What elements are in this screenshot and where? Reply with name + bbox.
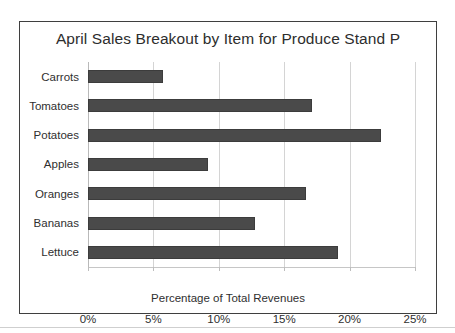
x-tick-mark xyxy=(219,267,220,271)
x-tick-mark xyxy=(88,267,89,271)
bar-row: Potatoes xyxy=(88,121,415,150)
bar[interactable] xyxy=(88,187,306,200)
bar-row: Bananas xyxy=(88,208,415,237)
gridline xyxy=(415,62,416,267)
bar-row: Carrots xyxy=(88,62,415,91)
bar[interactable] xyxy=(88,99,312,112)
bar[interactable] xyxy=(88,129,381,142)
x-axis-line xyxy=(88,267,415,268)
category-label: Apples xyxy=(44,158,79,170)
category-label: Oranges xyxy=(35,188,79,200)
category-label: Lettuce xyxy=(41,246,79,258)
x-tick-label: 20% xyxy=(338,313,361,325)
category-label: Bananas xyxy=(34,217,79,229)
x-tick-mark xyxy=(153,267,154,271)
x-tick-label: 25% xyxy=(403,313,426,325)
category-label: Carrots xyxy=(41,71,79,83)
bar-row: Tomatoes xyxy=(88,91,415,120)
bar[interactable] xyxy=(88,158,208,171)
bar-row: Lettuce xyxy=(88,238,415,267)
x-tick-label: 15% xyxy=(273,313,296,325)
x-tick-mark xyxy=(350,267,351,271)
bar-row: Oranges xyxy=(88,179,415,208)
chart-frame: April Sales Breakout by Item for Produce… xyxy=(19,21,437,314)
chart-title: April Sales Breakout by Item for Produce… xyxy=(20,30,436,48)
bar[interactable] xyxy=(88,217,255,230)
x-tick-label: 5% xyxy=(145,313,162,325)
bar[interactable] xyxy=(88,70,163,83)
x-axis-title: Percentage of Total Revenues xyxy=(20,292,436,304)
x-tick-label: 0% xyxy=(80,313,97,325)
x-tick-mark xyxy=(284,267,285,271)
bar[interactable] xyxy=(88,246,338,259)
x-tick-mark xyxy=(415,267,416,271)
x-tick-label: 10% xyxy=(207,313,230,325)
category-label: Potatoes xyxy=(34,129,79,141)
page-divider xyxy=(0,327,455,328)
category-label: Tomatoes xyxy=(29,100,79,112)
bar-row: Apples xyxy=(88,150,415,179)
plot-area: CarrotsTomatoesPotatoesApplesOrangesBana… xyxy=(88,62,415,267)
